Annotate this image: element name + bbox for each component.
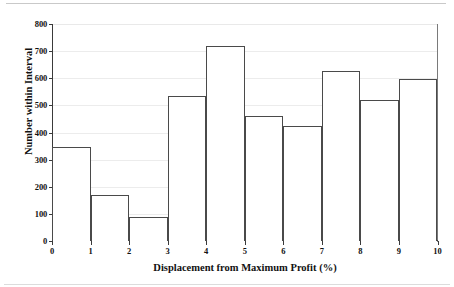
histogram-bar [283, 126, 322, 241]
x-tick-mark-6 [283, 241, 284, 245]
x-tick-label-10: 10 [428, 246, 448, 256]
x-tick-label-2: 2 [119, 246, 139, 256]
histogram-bar [91, 195, 130, 241]
x-tick-label-5: 5 [235, 246, 255, 256]
histogram-bar [399, 79, 438, 241]
x-tick-label-3: 3 [158, 246, 178, 256]
x-tick-mark-5 [245, 241, 246, 245]
histogram-bar [360, 100, 399, 241]
x-tick-mark-4 [206, 241, 207, 245]
scan-artifact-line-top [6, 3, 446, 4]
histogram-figure: 0100200300400500600700800 012345678910 D… [0, 0, 454, 287]
x-tick-label-1: 1 [81, 246, 101, 256]
x-tick-mark-1 [91, 241, 92, 245]
x-tick-mark-3 [168, 241, 169, 245]
x-tick-mark-7 [322, 241, 323, 245]
x-tick-mark-8 [360, 241, 361, 245]
x-tick-label-6: 6 [273, 246, 293, 256]
histogram-bar [206, 46, 245, 241]
x-tick-label-4: 4 [196, 246, 216, 256]
x-axis-label: Displacement from Maximum Profit (%) [52, 262, 438, 273]
histogram-bar [129, 217, 168, 241]
y-axis-label: Number within Interval [23, 22, 34, 182]
histogram-bar [322, 71, 361, 241]
x-tick-label-9: 9 [389, 246, 409, 256]
x-tick-mark-9 [399, 241, 400, 245]
y-tick-label-100: 100 [20, 209, 47, 219]
y-tick-label-0: 0 [20, 236, 47, 246]
x-tick-label-7: 7 [312, 246, 332, 256]
x-tick-label-0: 0 [42, 246, 62, 256]
histogram-bar [245, 116, 284, 241]
x-tick-label-8: 8 [350, 246, 370, 256]
histogram-bar [52, 147, 91, 241]
x-tick-mark-2 [129, 241, 130, 245]
x-tick-mark-0 [52, 241, 53, 245]
histogram-bar [168, 96, 207, 241]
scan-artifact-line-bottom [4, 284, 450, 285]
y-tick-label-200: 200 [20, 182, 47, 192]
